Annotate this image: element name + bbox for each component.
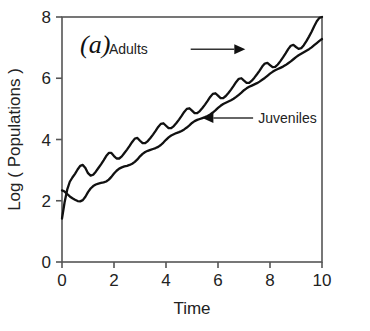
text-layer: 024681002468TimeLog ( Populations )(a) [5,8,331,318]
x-tick-label-2: 4 [161,271,170,290]
annotation-arrow-head-0 [234,44,245,54]
figure-panel-a: AdultsJuveniles 024681002468TimeLog ( Po… [0,0,370,331]
y-tick-label-0: 0 [42,253,51,272]
y-tick-label-3: 6 [42,69,51,88]
y-axis-title: Log ( Populations ) [5,68,24,211]
x-tick-label-4: 8 [265,271,274,290]
x-tick-label-3: 6 [213,271,222,290]
x-tick-label-5: 10 [313,271,332,290]
chart-canvas: AdultsJuveniles 024681002468TimeLog ( Po… [0,0,370,331]
y-tick-label-2: 4 [42,131,51,150]
annotation-label-adults: Adults [109,41,148,57]
y-tick-label-1: 2 [42,192,51,211]
x-tick-label-1: 2 [109,271,118,290]
y-tick-label-4: 8 [42,8,51,27]
x-tick-label-0: 0 [57,271,66,290]
panel-label: (a) [80,30,110,59]
annotation-label-juveniles: Juveniles [258,110,316,126]
x-axis-title: Time [173,299,210,318]
